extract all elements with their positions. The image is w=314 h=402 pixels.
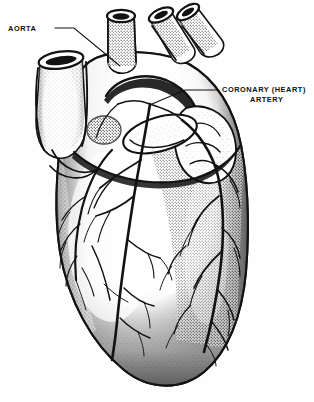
heart-illustration: AORTA CORONARY (HEART) ARTERY [0,0,314,402]
aorta-label: AORTA [8,24,37,33]
coronary-artery-label-line1: CORONARY (HEART) [222,85,306,94]
heart-anatomy-figure: AORTA CORONARY (HEART) ARTERY [0,0,314,402]
coronary-artery-label-line2: ARTERY [250,95,283,104]
aortic-stump-opening [113,13,130,20]
aortic-arch-stump [107,10,136,73]
